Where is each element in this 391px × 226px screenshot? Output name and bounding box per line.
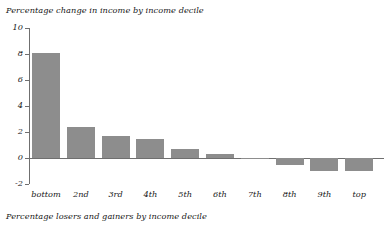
- y-tick-mark: [25, 106, 29, 107]
- y-tick-mark: [25, 132, 29, 133]
- y-tick-label: 6: [18, 74, 23, 84]
- bar: [102, 136, 130, 158]
- chart-title: Percentage change in income by income de…: [6, 5, 204, 15]
- y-tick-mark: [25, 28, 29, 29]
- x-axis-label: top: [337, 189, 381, 199]
- y-tick-mark: [25, 54, 29, 55]
- bar: [206, 154, 234, 158]
- chart-figure: Percentage change in income by income de…: [0, 0, 391, 226]
- y-tick-label: 2: [18, 126, 23, 136]
- y-axis-line: [29, 28, 30, 184]
- bar: [171, 149, 199, 158]
- y-tick-label: 10: [13, 22, 23, 32]
- bar: [241, 158, 269, 159]
- chart-caption: Percentage losers and gainers by income …: [6, 211, 207, 221]
- y-tick-label: 0: [18, 152, 23, 162]
- bar: [136, 139, 164, 159]
- y-tick-label: -2: [15, 178, 23, 188]
- bar: [276, 158, 304, 165]
- bar: [345, 158, 373, 171]
- bar: [310, 158, 338, 171]
- plot-area: 1086420-2: [29, 28, 385, 184]
- bar: [32, 53, 60, 158]
- y-tick-mark: [25, 184, 29, 185]
- bar: [67, 127, 95, 158]
- y-tick-mark: [25, 80, 29, 81]
- y-tick-label: 8: [18, 48, 23, 58]
- y-tick-label: 4: [18, 100, 23, 110]
